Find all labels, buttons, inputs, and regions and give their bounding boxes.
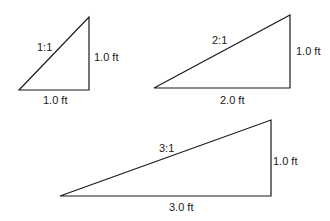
slope-label-3: 3:1 — [159, 142, 174, 154]
slope-label-2: 2:1 — [212, 34, 227, 46]
triangle-1-1 — [19, 17, 89, 90]
triangles-svg — [0, 0, 330, 221]
run-label-3: 3.0 ft — [169, 201, 193, 213]
run-label-2: 2.0 ft — [220, 94, 244, 106]
triangle-3-1 — [60, 120, 271, 196]
slope-ratio-diagram: 1:1 1.0 ft 1.0 ft 2:1 1.0 ft 2.0 ft 3:1 … — [0, 0, 330, 221]
rise-label-3: 1.0 ft — [273, 155, 297, 167]
slope-label-1: 1:1 — [37, 41, 52, 53]
run-label-1: 1.0 ft — [43, 94, 67, 106]
rise-label-1: 1.0 ft — [94, 51, 118, 63]
rise-label-2: 1.0 ft — [296, 45, 320, 57]
triangle-2-1 — [154, 15, 290, 88]
